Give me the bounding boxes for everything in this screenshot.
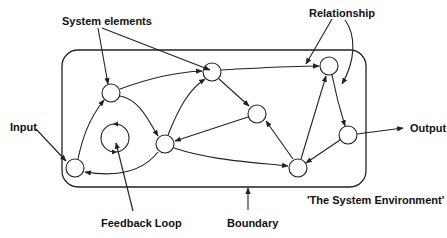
label-input: Input [10,121,37,133]
label-feedback-loop: Feedback Loop [101,217,182,229]
relationship-edges [78,66,345,174]
label-output: Output [410,122,446,134]
label-boundary: Boundary [227,217,279,229]
node-c [156,135,174,153]
node-f [320,57,338,75]
system-diagram: System elements Relationship Input Outpu… [0,0,447,238]
feedback-loop [101,122,129,155]
annotation-pointers [36,19,403,211]
node-a [66,159,84,177]
label-system-elements: System elements [62,15,152,27]
node-h [289,159,307,177]
node-e [248,105,266,123]
node-b [102,84,120,102]
label-system-environment: 'The System Environment' [307,194,445,206]
node-g [339,126,357,144]
node-d [203,63,221,81]
label-relationship: Relationship [309,7,375,19]
